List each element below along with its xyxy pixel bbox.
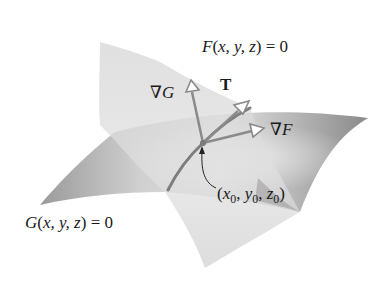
point-sep-1: , [236,184,245,203]
point-sep-2: , [258,184,267,203]
surface-g-rhs: 0 [104,213,113,232]
point-close-paren: ) [279,184,285,203]
surface-f-fn: F [202,37,212,56]
gradient-f-label: ∇F [270,121,292,138]
gradient-f-name: F [282,120,292,139]
gradient-g-label: ∇G [150,84,174,101]
surface-g-fn: G [25,213,37,232]
surface-f-rhs: 0 [280,37,289,56]
surface-g-label: G(x, y, z) = 0 [25,214,113,231]
nabla-icon: ∇ [270,120,282,139]
surface-f-args: x, y, z [218,37,256,56]
nabla-icon: ∇ [150,83,162,102]
point-label: (x0, y0, z0) [217,185,285,205]
tangent-name: T [220,75,231,94]
point-marker [200,140,206,146]
diagram-canvas: F(x, y, z) = 0 G(x, y, z) = 0 ∇G T ∇F (x… [0,0,386,287]
gradient-g-name: G [162,83,174,102]
surface-f-label: F(x, y, z) = 0 [202,38,288,55]
surfaces-graphic [0,0,386,287]
tangent-label: T [220,76,231,93]
surface-g-args: x, y, z [43,213,81,232]
